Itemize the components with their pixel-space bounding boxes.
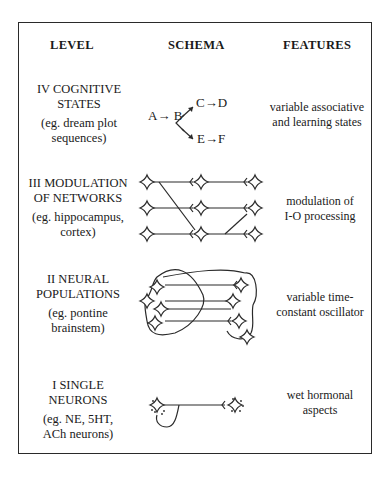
neuron-star-icon-ii-2 (140, 294, 154, 308)
neuron-star-icon-i-2 (228, 398, 242, 412)
features-ii-line1: variable time- (287, 290, 354, 304)
neuron-star-icon-iii-8 (194, 227, 208, 241)
features-iv: variable associative and learning states (262, 100, 372, 130)
level-i-example-line2: ACh neurons) (43, 427, 113, 441)
header-features: FEATURES (283, 38, 351, 53)
schema-iii-cross-line (159, 182, 195, 230)
features-iii-line2: I-O processing (285, 209, 356, 223)
schema-iii-network (135, 170, 265, 250)
neuron-star-icon-iii-5 (194, 201, 208, 215)
level-iv-line1: IV COGNITIVE (37, 82, 121, 96)
features-iii: modulation of I-O processing (272, 194, 368, 224)
neuron-star-icon-iii-9 (248, 227, 262, 241)
features-ii-line2: constant oscillator (276, 305, 364, 319)
level-iii-line2: OF NETWORKS (34, 191, 123, 205)
features-ii: variable time- constant oscillator (268, 290, 372, 320)
header-schema: SCHEMA (168, 38, 225, 53)
level-iii-example-line1: (eg. hippocampus, (32, 210, 124, 224)
level-ii-example-line1: (eg. pontine (48, 306, 108, 320)
level-ii-example-line2: brainstem) (51, 321, 104, 335)
level-iv-example-line1: (eg. dream plot (41, 116, 117, 130)
neuron-star-icon-ii-6 (226, 294, 240, 308)
features-iii-line1: modulation of (286, 194, 354, 208)
schema-iii-diag-line (225, 214, 247, 234)
neuron-star-icon-iii-1 (140, 175, 154, 189)
level-i-line2: NEURONS (48, 393, 107, 407)
schema-iv-cognitive-sequence: A→ B C→D E→F (140, 85, 260, 155)
level-iv-example: (eg. dream plotsequences) (24, 116, 134, 146)
level-iv-example-line2: sequences) (52, 131, 107, 145)
level-i: I SINGLENEURONS (eg. NE, 5HT,ACh neurons… (26, 378, 130, 442)
neuron-star-icon-ii-4 (148, 316, 162, 330)
neuron-star-icon-iii-4 (140, 201, 154, 215)
level-iv-title: IV COGNITIVESTATES (24, 82, 134, 112)
schema-i-single-neuron (145, 385, 255, 435)
level-ii-line1: II NEURAL (47, 272, 109, 286)
features-i: wet hormonal aspects (270, 388, 370, 418)
level-iv-line2: STATES (57, 97, 100, 111)
features-iv-line2: and learning states (272, 115, 361, 129)
level-iv: IV COGNITIVESTATES (eg. dream plotsequen… (24, 82, 134, 146)
neuron-star-icon-ii-7 (232, 314, 246, 328)
schema-iv-label-ef: E→F (197, 131, 225, 146)
level-ii-line2: POPULATIONS (36, 287, 120, 301)
level-iii-example-line2: cortex) (60, 225, 95, 239)
neuron-star-icon-iii-3 (248, 175, 262, 189)
neuron-star-icon-iii-7 (140, 227, 154, 241)
features-iv-line1: variable associative (270, 100, 364, 114)
level-i-example-line1: (eg. NE, 5HT, (43, 412, 113, 426)
features-i-line1: wet hormonal (287, 388, 353, 402)
level-iii: III MODULATIONOF NETWORKS (eg. hippocamp… (22, 176, 134, 240)
neuron-star-icon-ii-5 (234, 278, 248, 292)
neuron-star-icon-ii-1 (150, 280, 164, 294)
level-iii-line1: III MODULATION (29, 176, 128, 190)
neuron-star-icon-ii-3 (154, 302, 168, 316)
level-i-line1: I SINGLE (52, 378, 104, 392)
schema-ii-population (135, 265, 265, 345)
level-ii: II NEURALPOPULATIONS (eg. pontinebrainst… (26, 272, 130, 336)
neuron-star-icon-iii-2 (194, 175, 208, 189)
schema-iv-label-cd: C→D (196, 95, 227, 110)
schema-ii-top-arc (163, 270, 245, 277)
neuron-star-icon-iii-6 (248, 201, 262, 215)
header-level: LEVEL (50, 38, 94, 53)
features-i-line2: aspects (303, 403, 338, 417)
